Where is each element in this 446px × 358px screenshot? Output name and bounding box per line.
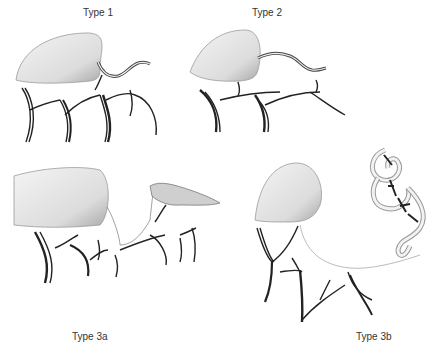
type-3b-branches: [257, 226, 372, 322]
illustration: [0, 0, 446, 358]
type-1-tail: [98, 62, 150, 76]
type-2-drawing: [190, 30, 345, 132]
type-3b-mass: [255, 163, 322, 222]
type-3b-coil: [372, 150, 423, 256]
type-2-mass: [190, 30, 260, 81]
type-3b-drawing: [255, 150, 423, 322]
type-3a-mass: [14, 168, 108, 228]
type-3a-drawing: [14, 168, 220, 283]
type-2-branches: [200, 80, 345, 132]
type-3a-tendril: [107, 185, 153, 245]
type-3a-mass-right: [150, 183, 220, 205]
type-3b-tendril: [300, 225, 420, 268]
type-1-branches: [22, 75, 156, 142]
type-2-tail: [258, 53, 326, 70]
type-1-drawing: [16, 33, 156, 142]
type-1-mass: [16, 33, 102, 83]
